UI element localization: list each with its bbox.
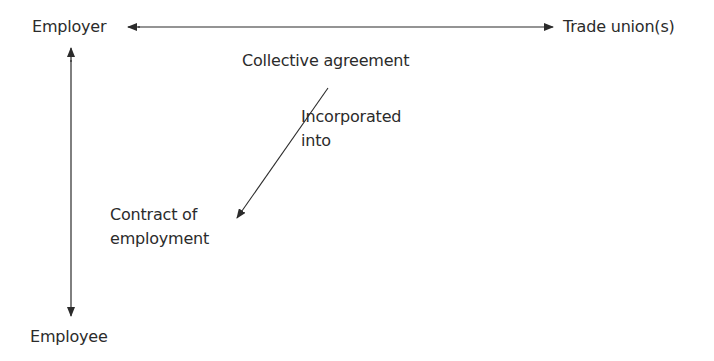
contract-node-line2: employment (110, 229, 209, 249)
collective-agreement-node: Collective agreement (242, 51, 409, 71)
incorporated-label-line2: into (301, 131, 331, 151)
employee-node: Employee (30, 327, 108, 347)
incorporated-label-line1: Incorporated (301, 107, 401, 127)
contract-node-line1: Contract of (110, 205, 197, 225)
trade-unions-node: Trade union(s) (563, 17, 675, 37)
employer-node: Employer (32, 17, 106, 37)
